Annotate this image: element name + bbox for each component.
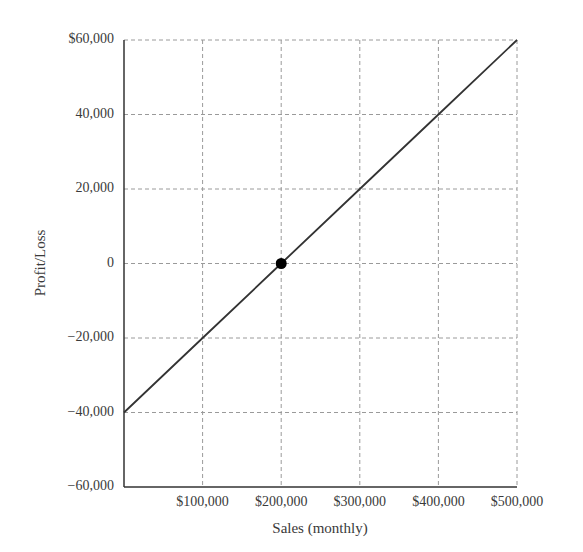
y-tick-label: $60,000: [69, 31, 115, 47]
y-tick-label: −40,000: [68, 404, 114, 420]
x-axis-label: Sales (monthly): [272, 520, 367, 537]
x-tick-label: $300,000: [334, 494, 387, 510]
y-tick-label: 0: [107, 255, 114, 271]
y-axis-ticks: $60,00040,00020,0000−20,000−40,000−60,00…: [0, 0, 114, 552]
grid-lines: [124, 40, 517, 487]
profit-loss-line: [124, 40, 517, 413]
x-tick-label: $500,000: [491, 494, 544, 510]
break-even-dot: [276, 258, 287, 269]
y-tick-label: 40,000: [76, 106, 115, 122]
x-tick-label: $200,000: [255, 494, 308, 510]
y-axis-label: Profit/Loss: [32, 230, 49, 297]
x-tick-label: $400,000: [412, 494, 465, 510]
break-even-point: [276, 258, 287, 269]
y-tick-label: −20,000: [68, 329, 114, 345]
x-tick-label: $100,000: [176, 494, 229, 510]
series-line: [124, 40, 517, 413]
y-tick-label: −60,000: [68, 478, 114, 494]
y-tick-label: 20,000: [76, 180, 115, 196]
